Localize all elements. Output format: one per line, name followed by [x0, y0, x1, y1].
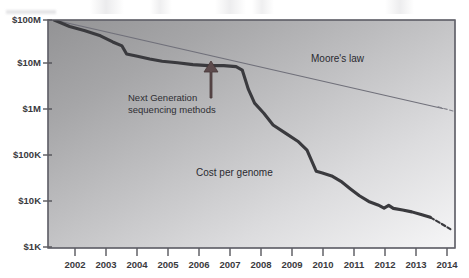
y-tick-label-100k: $100K — [13, 149, 41, 160]
x-tick-label-2004: 2004 — [126, 259, 148, 270]
chart-canvas: $100M $10M $1M $100K $10K $1K 2002 — [0, 0, 469, 278]
x-tick-label-2011: 2011 — [344, 259, 365, 270]
x-tick-label-2008: 2008 — [250, 259, 271, 270]
y-tick-label-100m: $100M — [12, 14, 41, 25]
y-tick-label-1k: $1K — [24, 241, 42, 252]
x-tick-label-2002: 2002 — [64, 259, 85, 270]
x-tick-label-2003: 2003 — [95, 259, 116, 270]
x-tick-label-2012: 2012 — [374, 259, 395, 270]
x-tick-label-2014: 2014 — [436, 259, 458, 270]
ngs-annotation-line1: Next Generation — [128, 92, 197, 103]
x-axis-tick-labels: 2002 2003 2004 2005 2006 2007 2008 2009 … — [64, 259, 458, 270]
x-tick-label-2006: 2006 — [188, 259, 209, 270]
x-tick-label-2005: 2005 — [157, 259, 179, 270]
x-tick-label-2009: 2009 — [281, 259, 302, 270]
x-tick-label-2013: 2013 — [405, 259, 426, 270]
x-tick-label-2010: 2010 — [312, 259, 333, 270]
x-axis-ticks — [75, 248, 447, 256]
cost-per-genome-figure: $100M $10M $1M $100K $10K $1K 2002 — [0, 0, 469, 278]
x-tick-label-2007: 2007 — [219, 259, 240, 270]
y-tick-label-10k: $10K — [18, 195, 41, 206]
y-tick-label-1m: $1M — [23, 103, 42, 114]
y-axis-tick-labels: $100M $10M $1M $100K $10K $1K — [12, 14, 41, 252]
plot-area-background — [48, 20, 455, 248]
moores-law-annotation: Moore's law — [311, 53, 365, 64]
ngs-annotation-line2: sequencing methods — [128, 104, 216, 115]
cost-per-genome-annotation: Cost per genome — [196, 167, 273, 178]
y-tick-label-10m: $10M — [17, 57, 41, 68]
